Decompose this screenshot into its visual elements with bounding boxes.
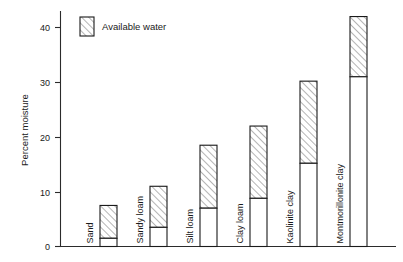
bar-segment-available-water	[300, 81, 317, 163]
bar-segment-unavailable-water	[250, 198, 267, 246]
bar-montmorillonite-clay	[350, 17, 367, 247]
category-label-silt-loam: Silt loam	[185, 209, 195, 244]
y-tick-label-40: 40	[40, 23, 50, 33]
legend-label: Available water	[102, 21, 166, 32]
bar-clay-loam	[250, 126, 267, 246]
y-tick-label-20: 20	[40, 133, 50, 143]
bar-segment-available-water	[350, 17, 367, 77]
category-label-sand: Sand	[85, 222, 95, 243]
category-label-kaolinite-clay: Kaolinite clay	[285, 190, 295, 244]
bar-chart-figure: 40 30 20 10 0 Percent moisture Available…	[0, 0, 403, 262]
y-tick-label-0: 0	[45, 242, 50, 252]
bar-kaolinite-clay	[300, 81, 317, 246]
category-label-sandy-loam: Sandy loam	[135, 196, 145, 244]
legend: Available water	[80, 17, 166, 36]
bar-segment-available-water	[200, 145, 217, 208]
y-axis-title: Percent moisture	[19, 94, 30, 166]
bar-segment-available-water	[150, 186, 167, 227]
bar-segment-unavailable-water	[200, 208, 217, 246]
bar-segment-unavailable-water	[150, 227, 167, 246]
bar-segment-available-water	[100, 205, 117, 238]
bar-sand	[100, 205, 117, 246]
legend-hatched-swatch	[80, 17, 94, 36]
bar-segment-unavailable-water	[350, 77, 367, 247]
category-label-montmorillonite-clay: Montmorillonite clay	[335, 163, 345, 243]
bar-segment-available-water	[250, 126, 267, 198]
chart-svg: 40 30 20 10 0 Percent moisture Available…	[0, 0, 403, 262]
bar-segment-unavailable-water	[300, 163, 317, 246]
bar-segment-unavailable-water	[100, 238, 117, 246]
y-tick-label-30: 30	[40, 78, 50, 88]
bar-sandy-loam	[150, 186, 167, 246]
category-label-clay-loam: Clay loam	[235, 203, 245, 243]
bar-silt-loam	[200, 145, 217, 246]
y-tick-label-10: 10	[40, 188, 50, 198]
